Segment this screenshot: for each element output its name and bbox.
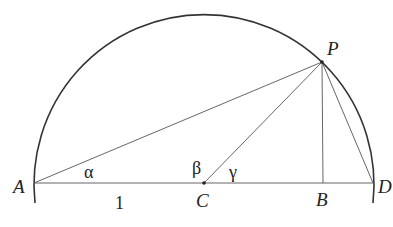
segment-AP <box>34 62 322 183</box>
segment-PD <box>322 62 373 183</box>
segment-label-AC: 1 <box>115 193 124 213</box>
segment-CP <box>204 62 322 183</box>
point-C-dot <box>202 181 206 185</box>
label-A: A <box>11 176 25 197</box>
label-P: P <box>326 38 339 59</box>
angle-gamma: γ <box>228 162 237 182</box>
angle-beta: β <box>192 158 201 178</box>
label-B: B <box>316 189 328 210</box>
semicircle-diagram: A C B D P α β γ 1 <box>0 0 393 227</box>
label-C: C <box>196 190 209 211</box>
segment-PB <box>322 62 323 183</box>
point-P-dot <box>320 60 324 64</box>
label-D: D <box>377 176 392 197</box>
angle-alpha: α <box>84 162 94 182</box>
